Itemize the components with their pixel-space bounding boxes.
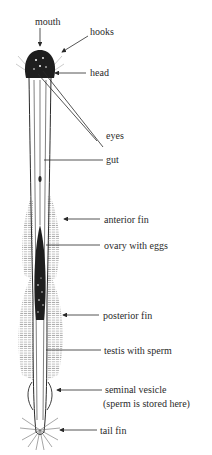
seminal-vesicle-shape xyxy=(28,382,52,410)
label-ovary: ovary with eggs xyxy=(104,240,168,251)
label-hooks: hooks xyxy=(90,26,114,37)
label-tail-fin: tail fin xyxy=(100,425,126,436)
label-mouth: mouth xyxy=(35,16,61,27)
ovary-shape xyxy=(34,225,45,320)
label-gut: gut xyxy=(106,154,119,165)
label-seminal-vesicle-note: (sperm is stored here) xyxy=(103,398,190,409)
label-eyes: eyes xyxy=(106,130,124,141)
head-shape xyxy=(16,50,64,78)
gut-dot xyxy=(38,176,41,182)
label-testis: testis with sperm xyxy=(104,345,172,356)
label-anterior-fin: anterior fin xyxy=(104,214,149,225)
label-head: head xyxy=(90,67,109,78)
label-posterior-fin: posterior fin xyxy=(103,310,152,321)
label-seminal-vesicle: seminal vesicle xyxy=(105,384,166,395)
